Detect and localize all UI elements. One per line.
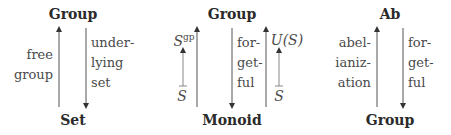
label-underlying-set: under-lyingset <box>91 33 134 93</box>
elem-s-gp: Sgp <box>173 32 194 49</box>
elem-s-left: S <box>177 88 187 104</box>
elem-u-s: U(S) <box>271 32 303 48</box>
node-set: Set <box>60 112 85 128</box>
label-abelianization: abel-ianiz-ation <box>335 33 371 93</box>
label-free-group: freegroup <box>14 45 53 85</box>
node-monoid: Monoid <box>202 112 261 128</box>
label-forgetful-ab: for-get-ful <box>408 33 434 93</box>
node-group: Group <box>49 6 98 22</box>
node-ab: Ab <box>380 6 401 22</box>
node-group: Group <box>208 6 257 22</box>
elem-s-right: S <box>274 88 284 104</box>
node-group-bottom: Group <box>366 112 415 128</box>
label-forgetful: for-get-ful <box>237 33 263 93</box>
